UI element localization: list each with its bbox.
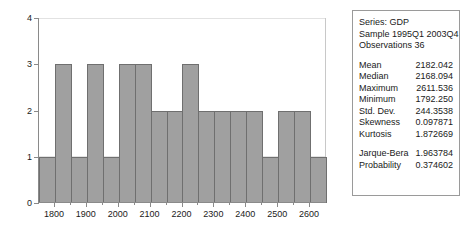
stat-label: Maximum [359, 83, 398, 95]
histogram-bar [262, 157, 279, 203]
stat-label: Kurtosis [359, 129, 392, 141]
x-axis-tick-label: 2400 [235, 210, 255, 219]
stat-row: Maximum2611.536 [359, 83, 453, 95]
statistics-box: Series: GDP Sample 1995Q1 2003Q4 Observa… [352, 10, 460, 196]
x-axis-tick [54, 202, 55, 207]
x-axis-minor-tick [197, 202, 198, 205]
histogram-bar [119, 64, 136, 203]
observations-label: Observations 36 [359, 40, 453, 52]
x-axis-minor-tick [261, 202, 262, 205]
sample-label: Sample 1995Q1 2003Q4 [359, 29, 453, 41]
histogram-bars [39, 18, 326, 203]
stat-row: Std. Dev.244.3538 [359, 106, 453, 118]
stat-label: Median [359, 71, 389, 83]
x-axis-tick [245, 202, 246, 207]
histogram-bar [103, 157, 120, 203]
x-axis-minor-tick [229, 202, 230, 205]
y-axis-tick [34, 203, 39, 204]
stat-label: Skewness [359, 117, 400, 129]
stat-label: Std. Dev. [359, 106, 395, 118]
y-axis-tick-label: 4 [16, 14, 32, 23]
stat-value: 2611.536 [416, 83, 453, 95]
histogram-bar [182, 64, 199, 203]
histogram-bar [167, 111, 184, 204]
stats-spacer-2 [359, 140, 453, 148]
x-axis-tick [309, 202, 310, 207]
histogram-panel: 01234 1800190020002100220023002400250026… [8, 6, 338, 220]
histogram-bar [214, 111, 231, 204]
stat-value: 2168.094 [415, 71, 453, 83]
x-axis-tick-label: 2600 [299, 210, 319, 219]
x-axis-tick-label: 2200 [171, 210, 191, 219]
stat-value: 1792.250 [415, 94, 453, 106]
x-axis-minor-tick [293, 202, 294, 205]
descriptive-stats-list: Mean2182.042Median2168.094Maximum2611.53… [359, 60, 453, 141]
eviews-histogram-stats-view: 01234 1800190020002100220023002400250026… [0, 0, 468, 231]
histogram-bar [39, 157, 56, 203]
y-axis-tick-label: 1 [16, 152, 32, 161]
x-axis-minor-tick [102, 202, 103, 205]
stat-row: Mean2182.042 [359, 60, 453, 72]
stat-label: Jarque-Bera [359, 148, 409, 160]
histogram-bar [55, 64, 72, 203]
x-axis-minor-tick [166, 202, 167, 205]
stat-row: Kurtosis1.872669 [359, 129, 453, 141]
histogram-bar [87, 64, 104, 203]
x-axis-minor-tick [134, 202, 135, 205]
test-row: Probability0.374602 [359, 160, 453, 172]
series-label: Series: GDP [359, 17, 453, 29]
histogram-bar [230, 111, 247, 204]
stats-spacer-1 [359, 52, 453, 60]
x-axis-tick [86, 202, 87, 207]
x-axis-tick-label: 2500 [267, 210, 287, 219]
histogram-bar [278, 111, 295, 204]
stat-row: Skewness0.097871 [359, 117, 453, 129]
stat-value: 0.097871 [415, 117, 453, 129]
stat-row: Median2168.094 [359, 71, 453, 83]
histogram-bar [71, 157, 88, 203]
x-axis-tick [277, 202, 278, 207]
x-axis-tick [182, 202, 183, 207]
normality-test-list: Jarque-Bera1.963784Probability0.374602 [359, 148, 453, 171]
x-axis-minor-tick [70, 202, 71, 205]
y-axis-tick-label: 3 [16, 60, 32, 69]
x-axis-tick-label: 2100 [140, 210, 160, 219]
stat-label: Minimum [359, 94, 396, 106]
plot-area: 01234 1800190020002100220023002400250026… [38, 18, 326, 203]
y-axis-tick-label: 2 [16, 106, 32, 115]
stat-value: 1.872669 [415, 129, 453, 141]
histogram-bar [135, 64, 152, 203]
x-axis-tick-label: 2000 [108, 210, 128, 219]
stat-row: Minimum1792.250 [359, 94, 453, 106]
histogram-bar [294, 111, 311, 204]
stat-value: 2182.042 [415, 60, 453, 72]
x-axis-tick [213, 202, 214, 207]
x-axis-tick-label: 1900 [76, 210, 96, 219]
stat-label: Probability [359, 160, 401, 172]
histogram-bar [310, 157, 327, 203]
stat-value: 0.374602 [415, 160, 453, 172]
x-axis-tick-label: 2300 [203, 210, 223, 219]
y-axis-tick-label: 0 [16, 199, 32, 208]
x-axis-tick [118, 202, 119, 207]
stat-value: 244.3538 [415, 106, 453, 118]
histogram-bar [198, 111, 215, 204]
histogram-bar [151, 111, 168, 204]
x-axis-tick [150, 202, 151, 207]
test-row: Jarque-Bera1.963784 [359, 148, 453, 160]
histogram-bar [246, 111, 263, 204]
stat-value: 1.963784 [415, 148, 453, 160]
x-axis-tick-label: 1800 [44, 210, 64, 219]
stat-label: Mean [359, 60, 382, 72]
